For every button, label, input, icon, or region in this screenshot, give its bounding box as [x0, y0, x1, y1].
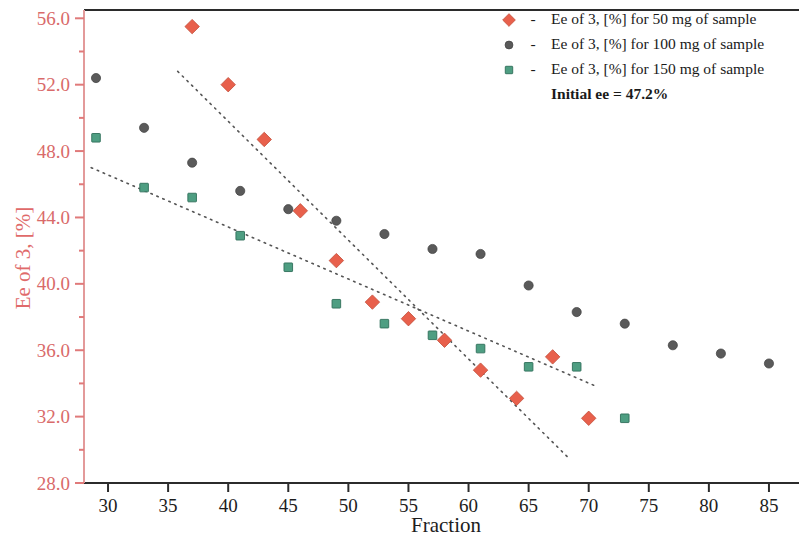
data-point [380, 229, 389, 238]
data-point [332, 216, 341, 225]
legend-marker-2 [505, 41, 513, 49]
x-axis-ticks [108, 483, 769, 492]
trendline-trend-150mg [91, 168, 597, 387]
scatter-plot: 28.032.036.040.044.048.052.056.0 3035404… [0, 0, 809, 540]
data-point [473, 363, 487, 377]
data-point [236, 231, 245, 240]
x-tick-label: 35 [159, 495, 178, 516]
legend-marker-1 [503, 14, 516, 27]
x-axis-title: Fraction [411, 513, 481, 537]
data-point [572, 363, 581, 372]
data-point [764, 359, 773, 368]
trendline-trend-50mg [178, 71, 567, 456]
data-point [380, 319, 389, 328]
data-point [509, 391, 523, 405]
data-point [365, 295, 379, 309]
data-point [188, 193, 197, 202]
data-point [668, 341, 677, 350]
data-point [524, 281, 533, 290]
data-point [572, 307, 581, 316]
data-points [91, 19, 773, 425]
y-tick-label: 28.0 [37, 473, 70, 494]
data-point [581, 411, 595, 425]
data-point [139, 123, 148, 132]
data-point [428, 331, 437, 340]
y-axis-title: Ee of 3, [%] [11, 207, 35, 310]
legend-dash-2: - [530, 35, 535, 52]
data-point [545, 350, 559, 364]
y-tick-label: 32.0 [37, 406, 70, 427]
data-point [428, 244, 437, 253]
chart-container: 28.032.036.040.044.048.052.056.0 3035404… [0, 0, 809, 540]
series-3 [92, 134, 629, 423]
data-point [524, 363, 533, 372]
legend-note-initial-ee: Initial ee = 47.2% [551, 85, 668, 102]
data-point [476, 344, 485, 353]
data-point [92, 134, 101, 143]
y-axis-tick-labels: 28.032.036.040.044.048.052.056.0 [37, 8, 70, 494]
series-1 [185, 19, 596, 425]
data-point [293, 204, 307, 218]
data-point [620, 319, 629, 328]
data-point [401, 311, 415, 325]
data-point [332, 299, 341, 308]
legend-label-2: Ee of 3, [%] for 100 mg of sample [551, 35, 764, 52]
data-point [716, 349, 725, 358]
data-point [257, 132, 271, 146]
data-point [188, 158, 197, 167]
y-tick-label: 48.0 [37, 141, 70, 162]
x-tick-label: 30 [99, 495, 118, 516]
legend: -Ee of 3, [%] for 50 mg of sample-Ee of … [503, 10, 765, 102]
data-point [221, 77, 235, 91]
data-point [185, 19, 199, 33]
y-tick-label: 52.0 [37, 74, 70, 95]
x-tick-label: 40 [219, 495, 238, 516]
data-point [437, 333, 451, 347]
x-tick-label: 70 [579, 495, 598, 516]
legend-label-3: Ee of 3, [%] for 150 mg of sample [551, 60, 764, 77]
data-point [329, 253, 343, 267]
data-point [140, 183, 149, 192]
x-tick-label: 80 [699, 495, 718, 516]
legend-dash-3: - [530, 60, 535, 77]
y-tick-label: 56.0 [37, 8, 70, 29]
data-point [284, 263, 293, 272]
y-tick-label: 40.0 [37, 273, 70, 294]
legend-label-1: Ee of 3, [%] for 50 mg of sample [551, 10, 756, 27]
plot-frame [84, 10, 799, 483]
x-tick-label: 85 [759, 495, 778, 516]
data-point [284, 205, 293, 214]
legend-marker-3 [505, 66, 512, 73]
data-point [620, 414, 629, 423]
data-point [236, 186, 245, 195]
data-point [91, 73, 100, 82]
y-tick-label: 36.0 [37, 340, 70, 361]
x-tick-label: 45 [279, 495, 298, 516]
x-tick-label: 75 [639, 495, 658, 516]
y-axis-ticks [75, 18, 84, 483]
data-point [476, 249, 485, 258]
legend-dash-1: - [530, 10, 535, 27]
x-tick-label: 50 [339, 495, 358, 516]
y-tick-label: 44.0 [37, 207, 70, 228]
x-tick-label: 65 [519, 495, 538, 516]
